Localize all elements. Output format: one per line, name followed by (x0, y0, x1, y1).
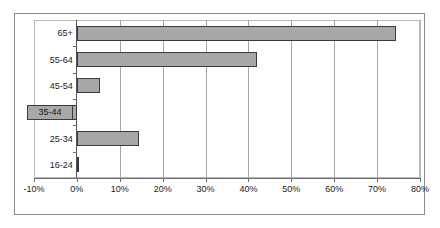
y-tick (73, 46, 77, 47)
gridline-50% (291, 20, 292, 178)
bar-55-64[interactable] (77, 52, 257, 67)
gridline-60% (334, 20, 335, 178)
bar-16-24[interactable] (77, 157, 79, 172)
x-tick-20% (163, 178, 164, 182)
x-tick-80% (420, 178, 421, 182)
y-axis-label-65+: 65+ (27, 27, 73, 39)
y-axis-label-45-54: 45-54 (27, 80, 73, 92)
x-tick--10% (34, 178, 35, 182)
x-tick-label-30%: 30% (186, 184, 226, 194)
plot-area: 65+55-6445-5435-4425-3416-24 -10%0%10%20… (34, 20, 420, 178)
gridline-30% (206, 20, 207, 178)
y-tick (73, 73, 77, 74)
x-tick-50% (291, 178, 292, 182)
axes-panel (34, 20, 420, 178)
chart-figure: 65+55-6445-5435-4425-3416-24 -10%0%10%20… (14, 13, 425, 215)
gridline--10% (34, 20, 35, 178)
x-tick-label-20%: 20% (143, 184, 183, 194)
bar-45-54[interactable] (77, 78, 100, 93)
y-axis-label-35-44: 35-44 (27, 105, 73, 120)
x-tick-40% (248, 178, 249, 182)
bar-row (34, 26, 420, 41)
bar-row (34, 52, 420, 67)
y-axis-label-25-34: 25-34 (27, 133, 73, 145)
x-tick-label-0%: 0% (57, 184, 97, 194)
bar-row (34, 78, 420, 93)
gridline-40% (248, 20, 249, 178)
y-axis-label-55-64: 55-64 (27, 54, 73, 66)
gridline-10% (120, 20, 121, 178)
x-tick-label--10%: -10% (14, 184, 54, 194)
y-tick (73, 152, 77, 153)
y-axis-label-16-24: 16-24 (27, 159, 73, 171)
y-tick (73, 125, 77, 126)
gridline-70% (377, 20, 378, 178)
bar-65+[interactable] (77, 26, 397, 41)
y-tick (73, 99, 77, 100)
bar-row (34, 105, 420, 120)
x-tick-label-50%: 50% (271, 184, 311, 194)
x-tick-label-80%: 80% (400, 184, 440, 194)
x-tick-label-10%: 10% (100, 184, 140, 194)
x-tick-label-70%: 70% (357, 184, 397, 194)
x-tick-30% (206, 178, 207, 182)
bar-25-34[interactable] (77, 131, 139, 146)
x-tick-10% (120, 178, 121, 182)
bar-row (34, 157, 420, 172)
x-tick-label-60%: 60% (314, 184, 354, 194)
x-tick-70% (377, 178, 378, 182)
bar-row (34, 131, 420, 146)
x-axis-line (34, 178, 420, 179)
x-tick-label-40%: 40% (228, 184, 268, 194)
x-tick-60% (334, 178, 335, 182)
gridline-80% (420, 20, 421, 178)
gridline-20% (163, 20, 164, 178)
x-tick-0% (77, 178, 78, 182)
